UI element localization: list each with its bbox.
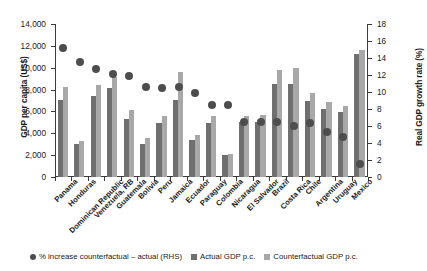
legend-label: Actual GDP p.c. xyxy=(200,252,255,261)
bar-counterfactual-gdp xyxy=(326,102,331,177)
bar-counterfactual-gdp xyxy=(343,106,348,177)
bar-counterfactual-gdp xyxy=(195,135,200,177)
scatter-point-pct-increase xyxy=(142,83,150,91)
bar-group xyxy=(121,24,137,177)
y-axis-right-tick xyxy=(368,109,372,110)
y-axis-right-tick-label: 0 xyxy=(377,173,382,181)
legend-label: % increase counterfactual – actual (RHS) xyxy=(39,252,182,261)
bar-group xyxy=(187,24,203,177)
y-axis-left-tick-label: 12,000 xyxy=(21,42,46,50)
y-axis-left-tick-label: 0 xyxy=(41,173,46,181)
bar-group xyxy=(170,24,186,177)
y-axis-left-tick-label: 14,000 xyxy=(21,20,46,28)
bar-group xyxy=(154,24,170,177)
scatter-point-pct-increase xyxy=(290,122,298,130)
bar-group xyxy=(137,24,153,177)
scatter-point-pct-increase xyxy=(125,72,133,80)
bar-group xyxy=(319,24,335,177)
bar-counterfactual-gdp xyxy=(145,138,150,177)
scatter-point-pct-increase xyxy=(306,119,314,127)
bar-counterfactual-gdp xyxy=(129,110,134,177)
bar-group xyxy=(352,24,368,177)
bar-counterfactual-gdp xyxy=(310,93,315,177)
legend-item: Actual GDP p.c. xyxy=(191,252,255,261)
y-axis-right-tick-label: 4 xyxy=(377,139,382,147)
legend-square-icon xyxy=(264,254,270,260)
scatter-point-pct-increase xyxy=(273,118,281,126)
y-axis-right-tick-label: 16 xyxy=(377,37,386,45)
bar-group xyxy=(104,24,120,177)
scatter-point-pct-increase xyxy=(109,70,117,78)
bar-group xyxy=(253,24,269,177)
bar-counterfactual-gdp xyxy=(79,141,84,177)
y-axis-right-labels: 024681012141618 xyxy=(377,24,417,177)
scatter-point-pct-increase xyxy=(323,128,331,136)
bar-counterfactual-gdp xyxy=(359,50,364,177)
y-axis-left-tick-label: 8,000 xyxy=(25,85,46,93)
legend-label: Counterfactual GDP p.c. xyxy=(273,252,357,261)
scatter-point-pct-increase xyxy=(356,160,364,168)
y-axis-left-tick-label: 2,000 xyxy=(25,151,46,159)
bar-group xyxy=(71,24,87,177)
chart-figure: GDP per capita (US$) Real GDP growth rat… xyxy=(0,0,427,271)
scatter-point-pct-increase xyxy=(175,83,183,91)
bar-counterfactual-gdp xyxy=(228,154,233,177)
y-axis-right-tick-label: 12 xyxy=(377,71,386,79)
scatter-point-pct-increase xyxy=(257,118,265,126)
y-axis-right-tick xyxy=(368,92,372,93)
bar-counterfactual-gdp xyxy=(96,85,101,177)
scatter-point-pct-increase xyxy=(240,118,248,126)
bar-group xyxy=(269,24,285,177)
legend-item: % increase counterfactual – actual (RHS) xyxy=(30,252,182,261)
y-axis-right-tick-label: 2 xyxy=(377,156,382,164)
y-axis-left-tick-label: 4,000 xyxy=(25,129,46,137)
legend-dot-icon xyxy=(30,254,36,260)
scatter-point-pct-increase xyxy=(339,133,347,141)
chart-legend: % increase counterfactual – actual (RHS)… xyxy=(30,252,410,261)
y-axis-right-tick xyxy=(368,58,372,59)
bar-group xyxy=(236,24,252,177)
y-axis-right-tick xyxy=(368,160,372,161)
scatter-point-pct-increase xyxy=(191,89,199,97)
bar-counterfactual-gdp xyxy=(112,77,117,177)
bar-group xyxy=(335,24,351,177)
y-axis-right-tick xyxy=(368,143,372,144)
bar-counterfactual-gdp xyxy=(211,116,216,177)
scatter-point-pct-increase xyxy=(59,44,67,52)
y-axis-right-tick xyxy=(368,126,372,127)
y-axis-right-tick xyxy=(368,41,372,42)
y-axis-right-tick xyxy=(368,75,372,76)
y-axis-left-tick-label: 10,000 xyxy=(21,64,46,72)
scatter-point-pct-increase xyxy=(76,58,84,66)
legend-square-icon xyxy=(191,254,197,260)
scatter-point-pct-increase xyxy=(224,101,232,109)
y-axis-right-tick-label: 10 xyxy=(377,88,386,96)
y-axis-right-tick-label: 14 xyxy=(377,54,386,62)
y-axis-right-tick-label: 8 xyxy=(377,105,382,113)
bar-counterfactual-gdp xyxy=(162,116,167,177)
legend-item: Counterfactual GDP p.c. xyxy=(264,252,357,261)
y-axis-right-tick-label: 18 xyxy=(377,20,386,28)
scatter-point-pct-increase xyxy=(158,84,166,92)
bar-group xyxy=(302,24,318,177)
y-axis-right-tick-label: 6 xyxy=(377,122,382,130)
bar-group xyxy=(88,24,104,177)
plot-area: 02,0004,0006,0008,00010,00012,00014,000 … xyxy=(55,24,368,177)
x-axis-labels: PanamaHondurasDominican RepublicVenezuel… xyxy=(55,177,368,237)
scatter-point-pct-increase xyxy=(208,101,216,109)
y-axis-left-tick-label: 6,000 xyxy=(25,107,46,115)
bar-group xyxy=(286,24,302,177)
scatter-point-pct-increase xyxy=(92,65,100,73)
bar-counterfactual-gdp xyxy=(63,87,68,177)
y-axis-right-tick xyxy=(368,24,372,25)
